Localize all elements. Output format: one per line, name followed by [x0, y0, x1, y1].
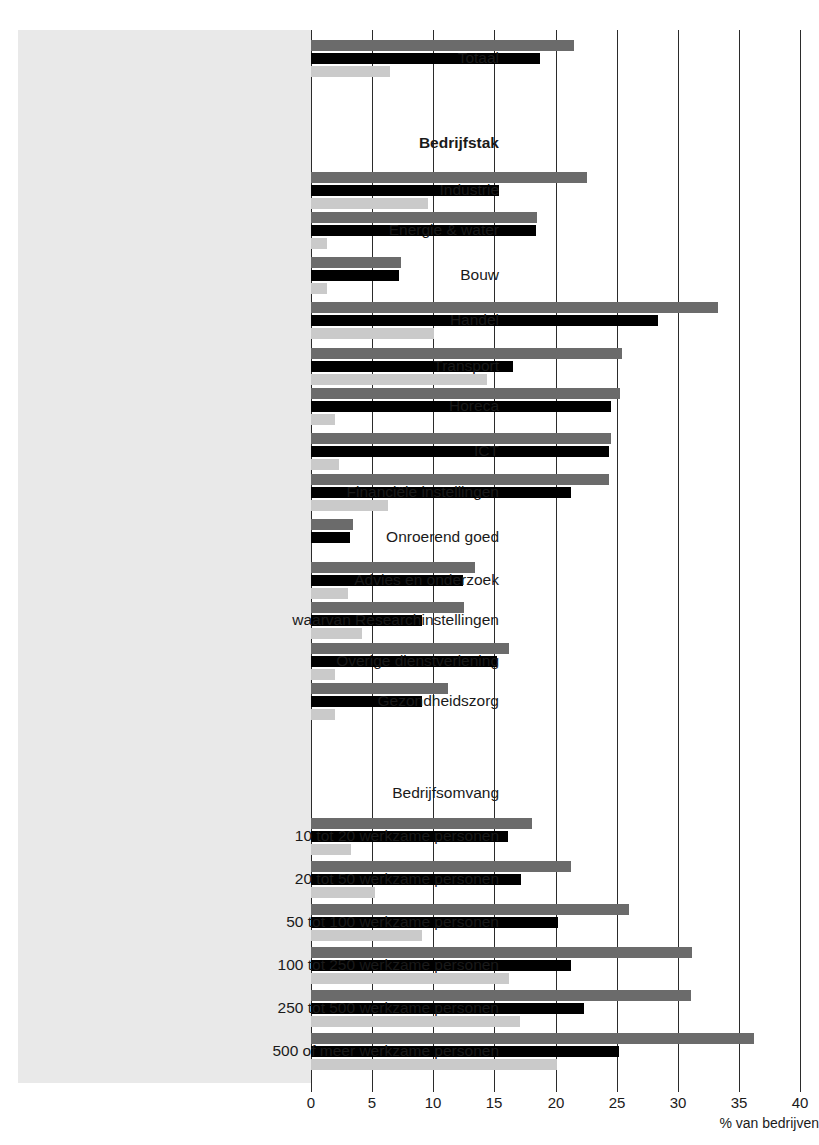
- bar: [311, 302, 718, 313]
- category-label: Bedrijfstak: [419, 135, 508, 151]
- x-axis: 0510152025303540: [311, 1083, 800, 1143]
- x-tick-mark: [372, 1083, 373, 1092]
- bar: [311, 238, 327, 249]
- category-label: Onroerend goed: [386, 529, 508, 545]
- category-label: Overige dienstverlening: [336, 653, 508, 669]
- category-label-panel: [18, 30, 311, 1083]
- bar: [311, 1059, 557, 1070]
- bar: [311, 588, 348, 599]
- x-tick-label: 25: [597, 1094, 637, 1111]
- x-tick-mark: [617, 1083, 618, 1092]
- gridline-25: [617, 30, 618, 1083]
- category-label: Gezondheidszorg: [378, 693, 509, 709]
- category-label: Industrie: [440, 182, 508, 198]
- x-tick-mark: [433, 1083, 434, 1092]
- category-label: Horeca: [449, 398, 508, 414]
- x-axis-title: % van bedrijven: [719, 1115, 819, 1131]
- x-tick-label: 40: [780, 1094, 819, 1111]
- x-tick-mark: [311, 1083, 312, 1092]
- bar-chart: TotaalBedrijfstakIndustrieEnergie & wate…: [0, 0, 819, 1145]
- category-label: 500 of meer werkzame personen: [272, 1043, 508, 1059]
- bar: [311, 628, 362, 639]
- x-tick-mark: [800, 1083, 801, 1092]
- bar: [311, 709, 335, 720]
- category-label: ICT: [474, 443, 508, 459]
- x-tick-label: 15: [474, 1094, 514, 1111]
- bar: [311, 500, 388, 511]
- bar: [311, 844, 351, 855]
- category-label: Transport: [433, 358, 508, 374]
- x-tick-label: 5: [352, 1094, 392, 1111]
- x-tick-mark: [739, 1083, 740, 1092]
- bar: [311, 257, 401, 268]
- category-label: Energie & water: [389, 222, 508, 238]
- x-tick-mark: [556, 1083, 557, 1092]
- bar: [311, 433, 611, 444]
- gridline-40: [800, 30, 801, 1083]
- gridline-30: [678, 30, 679, 1083]
- bar: [311, 973, 509, 984]
- bar: [311, 1016, 520, 1027]
- bar: [311, 328, 434, 339]
- bar: [311, 198, 428, 209]
- bar: [311, 66, 390, 77]
- gridline-35: [739, 30, 740, 1083]
- category-label: Advies en onderzoek: [354, 572, 508, 588]
- category-label: Bouw: [460, 267, 508, 283]
- bar: [311, 414, 335, 425]
- category-label: 100 tot 250 werkzame personen: [278, 957, 508, 973]
- bar: [311, 669, 335, 680]
- category-label: Totaal: [458, 50, 508, 66]
- category-label: waarvan Researchinstellingen: [292, 612, 508, 628]
- x-tick-label: 10: [413, 1094, 453, 1111]
- category-label: 20 tot 50 werkzame personen: [295, 871, 508, 887]
- x-tick-label: 35: [719, 1094, 759, 1111]
- bar: [311, 519, 353, 530]
- bar: [311, 930, 422, 941]
- x-tick-mark: [678, 1083, 679, 1092]
- bar: [311, 283, 327, 294]
- bar: [311, 270, 399, 281]
- category-label: Bedrijfsomvang: [392, 785, 508, 801]
- bar: [311, 446, 609, 457]
- x-tick-mark: [494, 1083, 495, 1092]
- bar: [311, 459, 339, 470]
- category-label: 250 tot 500 werkzame personen: [278, 1000, 508, 1016]
- x-tick-label: 20: [536, 1094, 576, 1111]
- bar: [311, 887, 375, 898]
- category-label: Financiële instellingen: [346, 484, 508, 500]
- bar: [311, 40, 574, 51]
- x-tick-label: 30: [658, 1094, 698, 1111]
- x-tick-label: 0: [291, 1094, 331, 1111]
- category-label: Handel: [450, 312, 508, 328]
- bar: [311, 374, 487, 385]
- bar: [311, 532, 350, 543]
- category-label: 50 tot 100 werkzame personen: [286, 914, 508, 930]
- category-label: 10 tot 20 werkzame personen: [295, 828, 508, 844]
